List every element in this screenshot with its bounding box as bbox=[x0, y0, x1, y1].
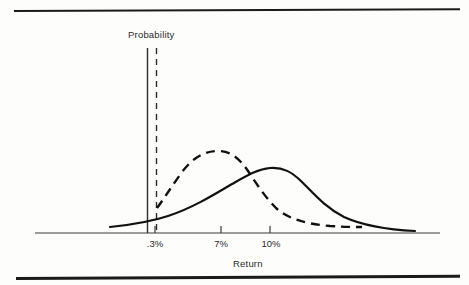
y-axis-title: Probability bbox=[128, 29, 175, 40]
curve-solid-peak-10 bbox=[110, 168, 415, 231]
xtick-label-0: .3% bbox=[140, 238, 170, 249]
xtick-label-2: 10% bbox=[255, 238, 287, 249]
figure-page: Probability .3% 7% 10% Return bbox=[0, 0, 469, 285]
curve-dashed-peak-7 bbox=[157, 151, 362, 227]
xtick-label-1: 7% bbox=[207, 238, 235, 249]
x-axis-title: Return bbox=[233, 258, 263, 269]
